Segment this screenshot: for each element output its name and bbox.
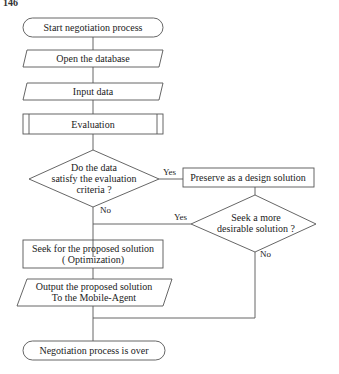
- decision-criteria-line2: satisfy the evaluation: [52, 173, 137, 184]
- open-database-label: Open the database: [56, 53, 130, 64]
- d1-no-label: No: [100, 205, 111, 215]
- decision-criteria-line1: Do the data: [71, 162, 118, 173]
- decision-desirable-line2: desirable solution ?: [217, 223, 295, 234]
- d2-yes-label: Yes: [174, 212, 188, 222]
- evaluation-label: Evaluation: [71, 119, 114, 130]
- decision-desirable-line1: Seek a more: [231, 212, 281, 223]
- preserve-label: Preserve as a design solution: [190, 172, 306, 183]
- seek-line2: ( Optimization): [62, 254, 124, 266]
- d1-yes-label: Yes: [163, 167, 177, 177]
- start-label: Start negotiation process: [44, 22, 143, 33]
- input-data-label: Input data: [73, 86, 114, 97]
- d2-no-label: No: [260, 249, 271, 259]
- output-line2: To the Mobile-Agent: [52, 292, 137, 303]
- flowchart: Start negotiation process Open the datab…: [0, 0, 339, 374]
- end-label: Negotiation process is over: [39, 345, 149, 356]
- decision-criteria-line3: criteria ?: [76, 184, 112, 195]
- output-line1: Output the proposed solution: [36, 281, 152, 292]
- seek-line1: Seek for the proposed solution: [32, 243, 154, 254]
